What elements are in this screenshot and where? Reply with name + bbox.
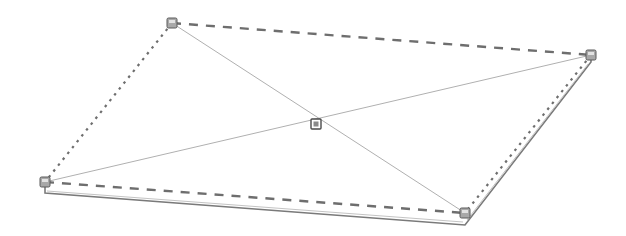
left-edge[interactable] (45, 23, 172, 182)
top-edge[interactable] (172, 23, 591, 55)
thickness-outline (45, 55, 591, 225)
plane-thickness (45, 55, 591, 225)
thickness-right-inner-line (467, 64, 588, 220)
handle-center[interactable] (311, 119, 321, 129)
right-edge[interactable] (465, 55, 591, 213)
handle-top-right[interactable] (586, 50, 596, 60)
perspective-plane-diagram (0, 0, 626, 236)
thickness-inner-line (47, 191, 463, 222)
handle-top-left[interactable] (167, 18, 177, 28)
handle-bottom-left[interactable] (40, 177, 50, 187)
handle-bottom-right[interactable] (460, 208, 470, 218)
